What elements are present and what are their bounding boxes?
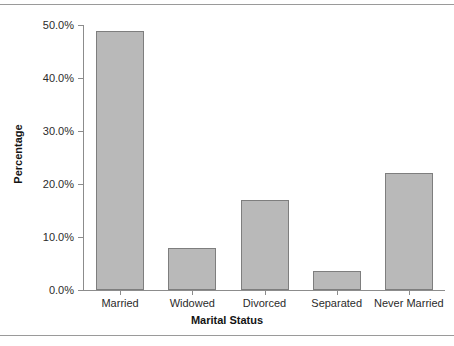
bar-divorced — [241, 200, 289, 290]
bar-chart-plot-area: 0.0%10.0%20.0%30.0%40.0%50.0% MarriedWid… — [0, 0, 454, 346]
y-axis-title: Percentage — [12, 114, 24, 194]
chart-screenshot: 0.0%10.0%20.0%30.0%40.0%50.0% MarriedWid… — [0, 0, 454, 346]
x-axis-tick-label: Never Married — [373, 297, 445, 310]
bar-married — [96, 31, 144, 290]
x-axis-tick-label: Widowed — [156, 297, 228, 310]
y-axis-tick — [78, 237, 83, 238]
y-axis-tick-label: 40.0% — [14, 73, 74, 84]
y-axis-tick — [78, 78, 83, 79]
bar-separated — [313, 271, 361, 290]
x-axis-tick — [120, 291, 121, 295]
x-axis-tick — [265, 291, 266, 295]
y-axis-tick — [78, 131, 83, 132]
x-axis-tick — [192, 291, 193, 295]
x-axis-title: Marital Status — [0, 314, 454, 326]
y-axis-tick-label: 0.0% — [14, 285, 74, 296]
y-axis-tick-label: 10.0% — [14, 232, 74, 243]
y-axis-tick-label: 50.0% — [14, 20, 74, 31]
y-axis-line — [83, 25, 84, 290]
y-axis-tick — [78, 290, 83, 291]
x-axis-tick — [337, 291, 338, 295]
x-axis-tick-label: Divorced — [228, 297, 300, 310]
bar-widowed — [168, 248, 216, 290]
y-axis-tick — [78, 184, 83, 185]
y-axis-tick — [78, 25, 83, 26]
x-axis-tick-label: Separated — [301, 297, 373, 310]
x-axis-tick-label: Married — [84, 297, 156, 310]
bar-never-married — [385, 173, 433, 290]
x-axis-tick — [409, 291, 410, 295]
